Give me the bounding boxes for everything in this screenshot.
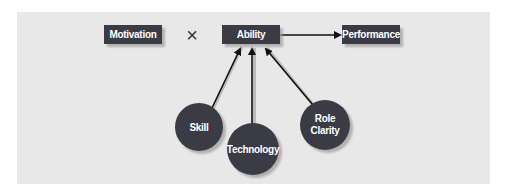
node-skill-label: Skill [189, 122, 209, 133]
node-technology: Technology [227, 123, 280, 175]
multiply-operator: × [186, 24, 198, 46]
node-motivation: Motivation [104, 25, 162, 44]
node-performance-label: Performance [342, 29, 401, 40]
node-role-clarity-label-line2: Clarity [310, 125, 340, 136]
node-motivation-label: Motivation [110, 29, 157, 40]
node-role-clarity: Role Clarity [300, 100, 350, 150]
node-technology-label: Technology [227, 144, 280, 155]
node-skill: Skill [175, 103, 223, 151]
node-performance: Performance [342, 25, 401, 44]
node-ability-label: Ability [237, 29, 266, 40]
node-role-clarity-label-line1: Role [315, 113, 336, 124]
performance-diagram: Motivation × Ability Performance Skill T… [0, 0, 507, 192]
edge-skill-to-ability [212, 47, 242, 109]
node-ability: Ability [222, 25, 280, 44]
edge-technology-to-ability [252, 48, 255, 125]
edge-role-clarity-to-ability [266, 48, 314, 106]
